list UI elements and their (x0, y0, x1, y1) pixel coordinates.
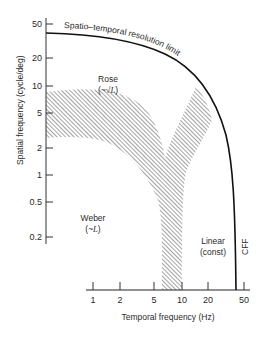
y-tick-label: 0.5 (29, 197, 42, 207)
x-tick-label: 20 (203, 295, 213, 305)
rose-law: (~√L) (98, 85, 118, 95)
x-axis-title: Temporal frequency (Hz) (121, 312, 214, 322)
x-tick-label: 5 (151, 295, 156, 305)
weber-label: Weber (81, 213, 106, 223)
hatched-band-shape (46, 87, 212, 290)
linear-law: (const) (200, 247, 226, 257)
y-tick-label: 5 (37, 108, 42, 118)
linear-label: Linear (201, 236, 225, 246)
y-tick-label: 10 (32, 81, 42, 91)
curve-label-text: Spatio–temporal resolution limit (64, 20, 183, 58)
weber-law: (~L) (85, 224, 101, 234)
curve-label: Spatio–temporal resolution limit (64, 20, 183, 58)
x-tick-label: 2 (117, 295, 122, 305)
region-linear: Linear (const) (200, 236, 226, 257)
y-axis-title: Spatial frequency (cycle/deg) (15, 55, 25, 165)
y-tick-label: 2 (37, 143, 42, 153)
y-tick-label: 50 (32, 19, 42, 29)
region-rose: Rose (~√L) (98, 74, 118, 95)
y-tick-label: 0.2 (29, 232, 42, 242)
diagram-figure: 50 20 10 5 2 1 0.5 0.2 Spatial frequency… (0, 0, 263, 337)
transition-band (46, 87, 212, 290)
y-tick-label: 1 (37, 170, 42, 180)
cff-label: CFF (240, 238, 250, 255)
y-tick-label: 20 (32, 53, 42, 63)
region-weber: Weber (~L) (81, 213, 106, 234)
x-tick-label: 1 (90, 295, 95, 305)
x-tick-label: 10 (177, 295, 187, 305)
rose-label: Rose (98, 74, 118, 84)
x-tick-label: 50 (239, 295, 249, 305)
